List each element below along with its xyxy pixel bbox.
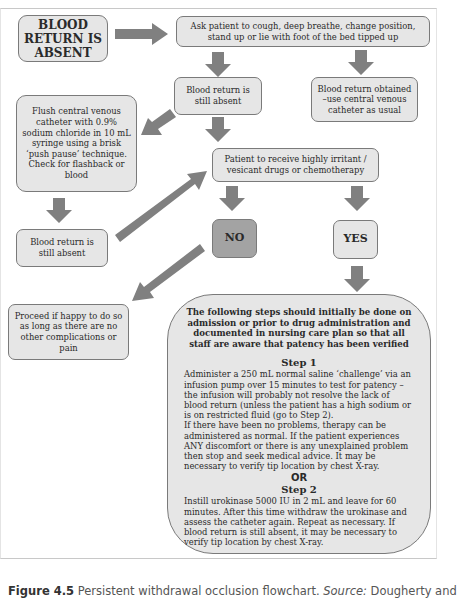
arrow-down-icon	[344, 186, 370, 211]
still-absent-label-1: Blood return is still absent	[179, 85, 257, 106]
question-node: Patient to receive highly irritant / ves…	[212, 148, 379, 182]
still-absent-label-2: Blood return is still absent	[21, 237, 103, 258]
step2-title: Step 2	[178, 484, 420, 496]
no-label: NO	[225, 233, 245, 244]
arrow-down-icon	[205, 52, 231, 77]
yes-label: YES	[343, 234, 367, 245]
blood-obtained-node: Blood return obtained –use central venou…	[311, 77, 418, 122]
steps-intro: The following steps should initially be …	[184, 307, 414, 349]
arrow-diagonal-icon	[141, 109, 176, 135]
no-node: NO	[212, 219, 257, 258]
proceed-node: Proceed if happy to do so as long as the…	[8, 304, 129, 360]
caption-source-label: Source:	[323, 584, 367, 598]
flush-label: Flush central venous catheter with 0.9% …	[21, 106, 132, 180]
start-node: BLOOD RETURN IS ABSENT	[18, 15, 108, 62]
arrow-down-icon	[205, 117, 231, 142]
proceed-label: Proceed if happy to do so as long as the…	[13, 311, 124, 353]
arrow-diagonal-icon	[132, 244, 205, 301]
arrow-down-icon	[46, 198, 72, 223]
ask-patient-label: Ask patient to cough, deep breathe, chan…	[181, 21, 425, 42]
arrow-down-icon	[219, 186, 245, 211]
step1-body: Administer a 250 mL normal saline ‘chall…	[184, 369, 414, 420]
steps-node: The following steps should initially be …	[167, 294, 431, 554]
caption-text: Persistent withdrawal occlusion flowchar…	[74, 584, 323, 598]
start-label: BLOOD RETURN IS ABSENT	[23, 18, 103, 60]
caption-label: Figure 4.5	[8, 584, 74, 598]
blood-obtained-label: Blood return obtained –use central venou…	[316, 84, 413, 116]
arrow-down-icon	[344, 266, 370, 292]
step1-title: Step 1	[178, 357, 420, 369]
ask-patient-node: Ask patient to cough, deep breathe, chan…	[176, 16, 430, 47]
question-label: Patient to receive highly irritant / ves…	[217, 154, 374, 175]
flush-node: Flush central venous catheter with 0.9% …	[16, 95, 137, 192]
or-separator: OR	[178, 471, 420, 484]
still-absent-node-1: Blood return is still absent	[174, 77, 262, 115]
still-absent-node-2: Blood return is still absent	[16, 229, 108, 267]
arrow-right-icon	[115, 23, 168, 45]
step1-body-2: If there have been no problems, therapy …	[184, 420, 414, 471]
caption-source-text: Dougherty and	[367, 584, 457, 598]
figure-caption: Figure 4.5 Persistent withdrawal occlusi…	[8, 584, 457, 598]
arrow-down-icon	[348, 50, 374, 75]
step2-body: Instill urokinase 5000 IU in 2 mL and le…	[184, 496, 414, 547]
yes-node: YES	[333, 220, 378, 259]
